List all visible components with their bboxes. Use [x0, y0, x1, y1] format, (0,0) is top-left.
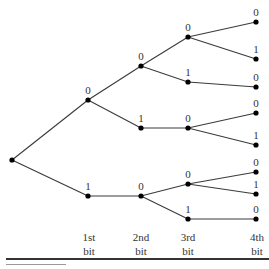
tree-edge — [188, 22, 256, 37]
node-bit-label: 0 — [185, 168, 191, 180]
tree-node — [85, 193, 90, 198]
tree-edges — [12, 22, 256, 219]
node-bit-label: 1 — [253, 129, 259, 141]
tree-edge — [141, 196, 188, 219]
tree-node — [253, 142, 258, 147]
tree-edge — [12, 100, 88, 160]
tree-node — [253, 84, 258, 89]
tree-node — [185, 125, 190, 130]
node-bit-label: 0 — [85, 84, 91, 96]
tree-node — [253, 56, 258, 61]
column-label-3rd-bit: 3rd bit — [173, 230, 203, 258]
node-bit-label: 0 — [185, 112, 191, 124]
column-label-line2: bit — [173, 244, 203, 258]
tree-edge — [188, 113, 256, 128]
tree-edge — [188, 172, 256, 184]
tree-node — [253, 110, 258, 115]
node-bit-label: 1 — [85, 180, 91, 192]
node-bit-label: 0 — [253, 156, 259, 168]
tree-node — [85, 97, 90, 102]
tree-edge — [88, 66, 141, 100]
column-label-2nd-bit: 2nd bit — [126, 230, 156, 258]
node-bit-label: 0 — [138, 180, 144, 192]
node-bit-label: 0 — [185, 21, 191, 33]
tree-edge — [188, 82, 256, 87]
tree-node — [253, 19, 258, 24]
tree-node-labels: 010100100101001010 — [85, 6, 259, 215]
caption-rule — [6, 264, 66, 265]
tree-edge — [141, 37, 188, 66]
node-bit-label: 0 — [253, 97, 259, 109]
tree-edge — [141, 66, 188, 82]
column-label-1st-bit: 1st bit — [74, 230, 104, 258]
bit-string-tree: 010100100101001010 — [0, 0, 269, 269]
column-label-line2: bit — [242, 244, 269, 258]
tree-node — [185, 181, 190, 186]
column-label-4th-bit: 4th bit — [242, 230, 269, 258]
tree-node — [138, 193, 143, 198]
node-bit-label: 0 — [138, 50, 144, 62]
tree-edge — [188, 184, 256, 194]
root-node — [9, 157, 14, 162]
node-bit-label: 0 — [253, 71, 259, 83]
tree-node — [138, 125, 143, 130]
node-bit-label: 0 — [253, 203, 259, 215]
node-bit-label: 1 — [138, 112, 144, 124]
column-label-line2: bit — [74, 244, 104, 258]
column-label-line2: bit — [126, 244, 156, 258]
tree-node — [253, 191, 258, 196]
tree-edge — [88, 100, 141, 128]
column-label-line1: 2nd — [126, 230, 156, 244]
node-bit-label: 1 — [185, 203, 191, 215]
tree-node — [185, 34, 190, 39]
node-bit-label: 1 — [253, 43, 259, 55]
column-label-line1: 3rd — [173, 230, 203, 244]
bottom-rule — [6, 258, 269, 260]
tree-node — [253, 169, 258, 174]
column-label-line1: 1st — [74, 230, 104, 244]
tree-node — [138, 63, 143, 68]
tree-edge — [188, 128, 256, 145]
tree-node — [185, 79, 190, 84]
node-bit-label: 1 — [185, 66, 191, 78]
node-bit-label: 0 — [253, 6, 259, 18]
column-label-line1: 4th — [242, 230, 269, 244]
tree-node — [185, 216, 190, 221]
tree-edge — [141, 184, 188, 196]
tree-node — [253, 216, 258, 221]
tree-edge — [188, 37, 256, 59]
node-bit-label: 1 — [253, 178, 259, 190]
tree-edge — [12, 160, 88, 196]
